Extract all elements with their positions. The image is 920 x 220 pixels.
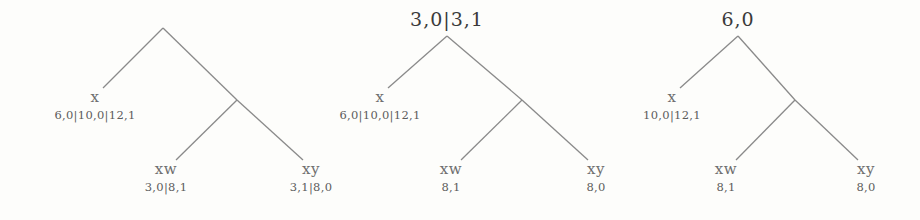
tree-2-edge-internal-to-xy xyxy=(522,100,588,160)
tree-1-node-x-name: x xyxy=(54,90,135,106)
tree-3-node-xy: xy 8,0 xyxy=(856,162,875,193)
tree-3-node-xy-name: xy xyxy=(856,162,875,178)
tree-2-node-xw-label: 8,1 xyxy=(440,181,462,193)
tree-2-node-xy: xy 8,0 xyxy=(586,162,605,193)
tree-1-edge-root-to-x xyxy=(103,28,163,88)
tree-2-node-xw-name: xw xyxy=(440,162,462,178)
tree-3-node-xw-label: 8,1 xyxy=(715,181,737,193)
tree-2-node-xw: xw 8,1 xyxy=(440,162,462,193)
tree-2-root-label: 3,0|3,1 xyxy=(410,8,484,30)
tree-2-node-x: x 6,0|10,0|12,1 xyxy=(339,90,420,121)
tree-1-edge-internal-to-xy xyxy=(237,100,303,160)
tree-3-node-xw-name: xw xyxy=(715,162,737,178)
tree-3-edge-internal-to-xw xyxy=(736,100,795,160)
tree-1-node-xw-label: 3,0|8,1 xyxy=(145,181,188,193)
tree-3-root-label: 6,0 xyxy=(721,8,754,30)
tree-1-node-x: x 6,0|10,0|12,1 xyxy=(54,90,135,121)
tree-3-node-x-name: x xyxy=(643,90,701,106)
tree-3-node-xy-label: 8,0 xyxy=(856,181,875,193)
tree-2-edge-root-to-x xyxy=(388,36,447,88)
tree-2-node-x-name: x xyxy=(339,90,420,106)
tree-2-node-x-label: 6,0|10,0|12,1 xyxy=(339,109,420,121)
tree-3-edge-root-to-x xyxy=(680,36,738,88)
tree-1-node-xw-name: xw xyxy=(145,162,188,178)
tree-3-node-x: x 10,0|12,1 xyxy=(643,90,701,121)
tree-1-edge-internal-to-xw xyxy=(176,100,237,160)
tree-2-edge-root-to-internal xyxy=(447,36,522,100)
tree-3-edge-root-to-internal xyxy=(738,36,795,100)
tree-1-node-xy-label: 3,1|8,0 xyxy=(290,181,333,193)
tree-2-node-xy-name: xy xyxy=(586,162,605,178)
tree-1-edge-root-to-internal xyxy=(163,28,237,100)
tree-1-node-xy-name: xy xyxy=(290,162,333,178)
tree-3-edge-internal-to-xy xyxy=(795,100,858,160)
tree-3-edges xyxy=(680,36,858,160)
tree-3-node-x-label: 10,0|12,1 xyxy=(643,109,701,121)
tree-2-edge-internal-to-xw xyxy=(461,100,522,160)
tree-2-node-xy-label: 8,0 xyxy=(586,181,605,193)
tree-3-node-xw: xw 8,1 xyxy=(715,162,737,193)
diagram-canvas: x 6,0|10,0|12,1 xw 3,0|8,1 xy 3,1|8,0 3,… xyxy=(0,0,920,220)
tree-1-node-xw: xw 3,0|8,1 xyxy=(145,162,188,193)
tree-1-node-x-label: 6,0|10,0|12,1 xyxy=(54,109,135,121)
tree-1-node-xy: xy 3,1|8,0 xyxy=(290,162,333,193)
